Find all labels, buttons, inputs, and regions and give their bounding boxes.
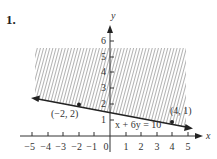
x-tick-labels: −5 −4 −3 −2 −1 0 1 2 3 4 5 bbox=[24, 141, 190, 152]
svg-text:4: 4 bbox=[170, 141, 175, 152]
point-label-4-1: (4, 1) bbox=[170, 105, 192, 117]
point-neg2-2 bbox=[77, 103, 81, 107]
svg-text:3: 3 bbox=[155, 141, 160, 152]
point-label-neg2-2: (−2, 2) bbox=[51, 108, 78, 120]
equation-label: x + 6y = 10 bbox=[115, 119, 161, 130]
svg-text:6: 6 bbox=[101, 35, 106, 46]
svg-text:−1: −1 bbox=[86, 141, 97, 152]
svg-text:−4: −4 bbox=[40, 141, 51, 152]
svg-text:4: 4 bbox=[101, 66, 106, 77]
svg-text:−2: −2 bbox=[71, 141, 82, 152]
svg-text:0: 0 bbox=[104, 141, 109, 152]
svg-text:−3: −3 bbox=[55, 141, 66, 152]
y-axis-label: y bbox=[110, 10, 116, 21]
svg-text:2: 2 bbox=[101, 98, 106, 109]
svg-text:−5: −5 bbox=[24, 141, 35, 152]
inequality-graph: x y −5 −4 −3 −2 −1 0 1 2 3 4 5 1 2 3 4 5… bbox=[0, 0, 217, 159]
svg-text:1: 1 bbox=[101, 114, 106, 125]
svg-text:2: 2 bbox=[139, 141, 144, 152]
x-axis bbox=[20, 132, 203, 139]
svg-text:5: 5 bbox=[186, 141, 191, 152]
svg-text:3: 3 bbox=[101, 82, 106, 93]
svg-text:5: 5 bbox=[101, 51, 106, 62]
x-axis-label: x bbox=[205, 130, 211, 141]
svg-text:1: 1 bbox=[124, 141, 129, 152]
point-4-1 bbox=[170, 120, 174, 124]
